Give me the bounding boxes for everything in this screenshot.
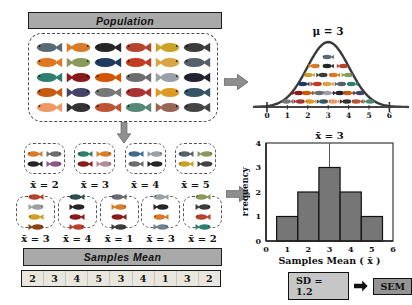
svg-text:4: 4 [348,244,354,254]
svg-text:x̄ = 3: x̄ = 3 [315,130,343,141]
arrow-down-population-to-samples-icon [116,122,132,144]
fish-icon [153,223,169,231]
svg-text:3: 3 [255,162,261,172]
fish-icon [46,150,62,158]
fish-icon [298,82,309,87]
sample-mean-label: x̄ = 4 [131,179,159,190]
fish-icon [155,56,180,69]
sample-mean-value: 1 [155,271,177,286]
fish-icon [27,160,43,168]
fish-icon [363,99,374,104]
sample-mean-label: x̄ = 3 [21,233,49,244]
sample-mean-value: 3 [110,271,132,286]
fish-icon [178,160,194,168]
sample-mean-value: 2 [199,271,220,286]
sample-box [58,196,97,228]
fish-icon [195,223,211,231]
svg-text:1: 1 [255,211,261,221]
fish-icon [312,91,323,96]
sample-unit: x̄ = 4 [125,143,166,190]
svg-text:3: 3 [327,244,333,254]
fish-icon [195,203,211,211]
fish-icon [183,71,211,84]
fish-icon [155,71,180,84]
fish-icon [125,86,152,99]
fish-icon [323,82,334,87]
sample-mean-label: x̄ = 1 [105,233,133,244]
sd-value-box: SD = 1.2 [288,272,349,300]
fish-icon [111,193,127,201]
sd-value-label: SD = 1.2 [296,275,322,297]
fish-icon [305,99,316,104]
fish-icon [94,41,122,54]
svg-text:4: 4 [255,138,261,148]
svg-text:2: 2 [305,111,310,120]
sample-unit: x̄ = 1 [100,196,139,244]
fish-icon [153,213,169,221]
fish-icon [302,91,313,96]
fish-icon [28,203,44,211]
fish-icon [343,91,354,96]
fish-icon [342,73,353,78]
fish-icon [36,86,63,99]
fish-icon [183,86,211,99]
fish-icon [77,160,93,168]
sample-mean-label: x̄ = 4 [63,233,91,244]
population-header-label: Population [96,15,154,27]
fish-icon [304,73,315,78]
svg-text:6: 6 [387,111,392,120]
fish-icon [335,82,346,87]
fish-icon [111,223,127,231]
sample-mean-label: x̄ = 3 [147,233,175,244]
fish-icon [329,73,340,78]
fish-icon [183,56,211,69]
fish-icon [125,101,152,114]
svg-text:3: 3 [326,111,331,120]
svg-text:Frequency: Frequency [243,166,250,217]
sample-row-1: x̄ = 2x̄ = 3x̄ = 4x̄ = 5 [24,143,216,190]
svg-text:4: 4 [346,111,351,120]
fish-icon [66,71,91,84]
fish-icon [69,223,85,231]
fish-icon [147,160,163,168]
sample-box [183,196,222,228]
sem-label: SEM [380,281,405,292]
fish-icon [195,213,211,221]
sample-mean-value: 3 [44,271,66,286]
sample-mean-label: x̄ = 2 [188,233,216,244]
fish-icon [96,160,112,168]
population-distribution-curve: 0123456 [250,36,412,122]
fish-icon [28,213,44,221]
fish-icon [36,41,63,54]
sample-box [100,196,139,228]
fish-icon [353,91,364,96]
fish-icon [340,99,351,104]
fish-icon [94,71,122,84]
fish-icon [69,213,85,221]
fish-icon [195,193,211,201]
fish-icon [46,160,62,168]
sample-box [125,143,166,174]
sample-unit: x̄ = 5 [175,143,216,190]
fish-icon [323,55,334,60]
sample-unit: x̄ = 3 [141,196,180,244]
fish-icon [310,82,321,87]
fish-icon [66,41,91,54]
fish-icon [155,101,180,114]
svg-text:2: 2 [255,187,261,197]
sample-unit: x̄ = 3 [74,143,115,190]
sd-sem-row: SD = 1.2 SEM [288,272,412,300]
fish-icon [328,99,339,104]
fish-icon [36,101,63,114]
fish-icon [66,86,91,99]
svg-text:0: 0 [255,236,261,246]
sample-mean-value: 4 [133,271,155,286]
fish-icon [111,213,127,221]
fish-icon [69,193,85,201]
sample-mean-label: x̄ = 2 [30,179,58,190]
sample-box [74,143,115,174]
svg-text:0: 0 [263,244,269,254]
fish-icon [96,150,112,158]
svg-text:6: 6 [390,244,396,254]
samples-mean-header-label: Samples Mean [84,251,162,263]
